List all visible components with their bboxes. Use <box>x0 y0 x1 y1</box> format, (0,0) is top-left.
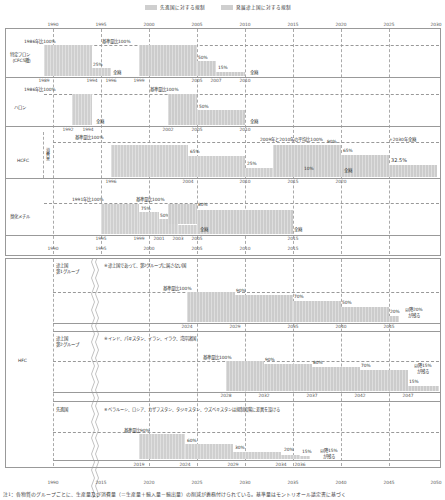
group-label: 途上国 <box>56 263 68 268</box>
year-label: 2020 <box>335 179 346 184</box>
pct-label: 60% <box>187 438 197 443</box>
top-tick: 2000 <box>143 22 154 27</box>
group-label: 第1グループ <box>56 269 79 274</box>
group-divider <box>53 401 440 402</box>
bar-cfc-dev-25 <box>92 68 111 76</box>
group-label: 第2グループ <box>56 342 79 347</box>
top-tick: 1995 <box>95 22 106 27</box>
year-label: 2001 <box>153 236 164 241</box>
year-label: 2004 <box>182 179 193 184</box>
bottom-tick: 2030 <box>239 480 250 485</box>
bar-halon-dvg-50 <box>197 110 245 125</box>
base-label: 基準量比100% <box>102 39 131 44</box>
base-label: 基準量比90% <box>124 428 150 433</box>
year-label: 2005 <box>191 78 202 83</box>
bottom-tick: 2040 <box>335 480 346 485</box>
pct-label: 15% <box>409 379 419 384</box>
pct-label: 80% <box>313 360 323 365</box>
year-label: 1994 <box>82 127 93 132</box>
bottom-tick: 2020 <box>143 480 154 485</box>
pct-label: 70% <box>294 294 304 299</box>
baseline-100 <box>53 292 439 293</box>
year-label: 2040 <box>335 324 346 329</box>
pct-label: 20% <box>284 447 294 452</box>
sub-divider <box>43 132 44 178</box>
group-label: 途上国 <box>56 336 68 341</box>
end-label: 全廃 <box>250 119 258 124</box>
bottom-tick: 2025 <box>191 480 202 485</box>
legend-swatch-developing <box>221 5 233 10</box>
group-divider <box>53 460 440 461</box>
tail-label: 以降15% <box>414 363 432 368</box>
base-label: 基準量比100% <box>163 286 192 291</box>
end-label: 全廃 <box>294 227 302 232</box>
bar-mb-dvg-80 <box>197 210 293 234</box>
top-tick: 2015 <box>287 22 298 27</box>
pct-label: 90% <box>327 139 337 144</box>
pct-label: 25% <box>93 62 103 67</box>
year-label: 1999 <box>133 78 144 83</box>
baseline-100 <box>53 142 439 143</box>
pct-label: 20% <box>390 309 400 314</box>
baseline-100 <box>44 94 439 95</box>
base-label: 基準量比100% <box>75 135 104 140</box>
group-divider <box>53 323 440 324</box>
year-label: 2037 <box>306 393 317 398</box>
year-label: 1992 <box>62 127 73 132</box>
year-label: 2019 <box>133 462 144 467</box>
year-label: 1995 <box>95 236 106 241</box>
row-label-hfc: HFC <box>18 358 27 363</box>
bar-cfc-dev-100 <box>44 45 92 76</box>
pct-label: 50% <box>199 104 209 109</box>
base-label: 1986年比100% <box>24 87 56 92</box>
mid-tick: 2005 <box>191 246 202 251</box>
end-label: 全廃 <box>250 70 258 75</box>
year-label: 2005 <box>191 236 202 241</box>
mid-tick: 2000 <box>143 246 154 251</box>
bar-hcfc-dvg-65 <box>341 155 389 177</box>
bar-hcfc-dev-65 <box>188 156 245 177</box>
pct-label: 25% <box>247 161 257 166</box>
pct-label: 30% <box>235 445 245 450</box>
year-label: 2010 <box>239 127 250 132</box>
bar-cfc-dvg-100 <box>139 45 197 76</box>
pct-label: 90% <box>236 288 246 293</box>
bar-hfc-g1-20 <box>389 316 399 322</box>
grid-line <box>389 259 390 466</box>
pct-label: 50% <box>342 300 352 305</box>
bar-hfc-g2-70 <box>360 370 408 391</box>
row-label-hcfc: HCFC <box>17 158 29 163</box>
year-label: 2003 <box>172 236 183 241</box>
group-label: 先進国 <box>56 407 68 412</box>
mid-tick: 2010 <box>239 246 250 251</box>
bar-cfc-dvg-50 <box>197 61 216 76</box>
base-label: 基準量比100% <box>203 355 232 360</box>
pct-label: 90% <box>265 357 275 362</box>
end-label: 全廃 <box>96 119 104 124</box>
year-label: 2015 <box>287 179 298 184</box>
bar-hfc-g3-30 <box>233 452 281 459</box>
year-label: 2010 <box>239 78 250 83</box>
bottom-tick: 1990 <box>47 480 58 485</box>
bar-hcfc-dvg-100 <box>273 145 341 177</box>
year-label: 2047 <box>402 393 413 398</box>
year-label: 2036 <box>294 462 305 467</box>
year-label: 2029 <box>227 462 238 467</box>
group-divider <box>53 331 440 332</box>
end-label: 全廃 <box>113 70 121 75</box>
year-label: 2002 <box>162 127 173 132</box>
end-label: 全廃 <box>344 168 352 173</box>
group-note: ※途上国であって、第2グループに属さない国 <box>104 263 186 268</box>
pct-label: 65% <box>190 149 200 154</box>
row-label-halon: ハロン <box>14 105 26 110</box>
top-tick: 2005 <box>191 22 202 27</box>
bar-hfc-g1-50 <box>341 307 389 322</box>
year-label: 2034 <box>275 462 286 467</box>
bar-hcfc-dvg-32 <box>389 165 437 177</box>
top-tick: 2020 <box>335 22 346 27</box>
tail-label: 以降15% <box>320 448 338 453</box>
bar-hfc-g2-15 <box>408 386 439 391</box>
end-label: 全廃 <box>200 227 208 232</box>
pct-label: 15% <box>218 65 228 70</box>
bottom-tick: 2035 <box>287 480 298 485</box>
